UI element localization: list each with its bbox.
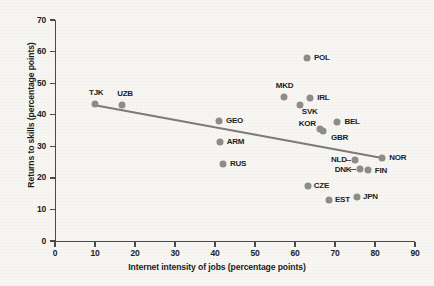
x-tick-20: [134, 242, 135, 247]
y-tick-label-60: 60: [0, 47, 46, 56]
x-tick-label-60: 60: [283, 249, 307, 258]
data-point-label-nor: NOR: [389, 154, 406, 162]
data-point-arm: [216, 138, 223, 145]
y-tick-label-70: 70: [0, 16, 46, 25]
x-tick-label-0: 0: [43, 249, 67, 258]
y-tick-60: [50, 51, 55, 52]
x-tick-label-40: 40: [203, 249, 227, 258]
data-point-label-irl: IRL: [317, 94, 329, 102]
x-tick-label-20: 20: [123, 249, 147, 258]
data-point-rus: [220, 160, 227, 167]
y-axis-title: Returns to skills (percentage points): [26, 15, 36, 215]
y-tick-label-30: 30: [0, 142, 46, 151]
data-point-label-jpn: JPN: [363, 193, 378, 201]
data-point-label-fin: FIN: [375, 167, 387, 175]
y-tick-label-20: 20: [0, 173, 46, 182]
data-point-mkd: [280, 94, 287, 101]
data-point-bel: [334, 118, 341, 125]
x-tick-label-10: 10: [83, 249, 107, 258]
data-point-label-pol: POL: [314, 54, 330, 62]
data-point-geo: [216, 118, 223, 125]
data-point-label-arm: ARM: [227, 138, 244, 146]
data-point-label-geo: GEO: [226, 117, 243, 125]
data-point-label-nld: NLD: [331, 156, 347, 164]
x-tick-70: [334, 242, 335, 247]
data-point-fin: [364, 166, 371, 173]
y-tick-70: [50, 19, 55, 20]
data-point-label-mkd: MKD: [276, 82, 293, 90]
data-point-nor: [379, 154, 386, 161]
data-point-label-cze: CZE: [314, 182, 329, 190]
x-tick-80: [374, 242, 375, 247]
data-point-label-gbr: GBR: [331, 134, 348, 142]
data-point-label-rus: RUS: [230, 160, 246, 168]
data-point-label-uzb: UZB: [117, 90, 133, 98]
plot-area: [55, 20, 415, 241]
y-tick-50: [50, 83, 55, 84]
x-tick-10: [94, 242, 95, 247]
y-tick-label-10: 10: [0, 205, 46, 214]
data-point-uzb: [119, 102, 126, 109]
x-axis-title: Internet intensity of jobs (percentage p…: [0, 262, 434, 272]
x-tick-label-50: 50: [243, 249, 267, 258]
x-tick-0: [54, 242, 55, 247]
y-axis-line: [55, 20, 56, 241]
data-point-gbr: [320, 127, 327, 134]
x-tick-50: [254, 242, 255, 247]
y-tick-10: [50, 209, 55, 210]
data-point-jpn: [354, 193, 361, 200]
data-point-label-svk: SVK: [302, 108, 318, 116]
y-tick-30: [50, 146, 55, 147]
y-tick-label-0: 0: [0, 237, 46, 246]
data-point-est: [326, 196, 333, 203]
y-tick-label-50: 50: [0, 79, 46, 88]
x-tick-label-80: 80: [363, 249, 387, 258]
y-tick-40: [50, 114, 55, 115]
data-point-irl: [307, 94, 314, 101]
x-tick-90: [414, 242, 415, 247]
data-point-cze: [304, 183, 311, 190]
x-tick-60: [294, 242, 295, 247]
data-point-dnk: [356, 166, 363, 173]
y-tick-20: [50, 177, 55, 178]
data-point-label-kor: KOR: [299, 120, 316, 128]
data-point-pol: [304, 54, 311, 61]
data-point-label-tjk: TJK: [89, 89, 103, 97]
data-point-label-bel: BEL: [344, 118, 359, 126]
x-tick-label-70: 70: [323, 249, 347, 258]
x-tick-label-30: 30: [163, 249, 187, 258]
x-tick-40: [214, 242, 215, 247]
data-point-nld: [352, 156, 359, 163]
data-point-label-dnk: DNK: [335, 166, 352, 174]
data-point-tjk: [92, 100, 99, 107]
y-tick-label-40: 40: [0, 110, 46, 119]
x-tick-label-90: 90: [403, 249, 427, 258]
scatter-chart-figure: 010203040506070 0102030405060708090 TJKU…: [0, 0, 434, 286]
data-point-label-est: EST: [335, 196, 350, 204]
x-tick-30: [174, 242, 175, 247]
x-axis-line: [55, 241, 415, 242]
